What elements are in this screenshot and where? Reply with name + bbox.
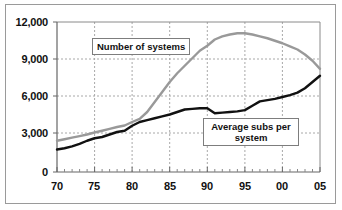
series-callout-number-of-systems: Number of systems bbox=[92, 38, 190, 55]
x-tick-label-80: 80 bbox=[118, 180, 146, 192]
series-callout-average-subs-per-system: Average subs per system bbox=[203, 118, 299, 146]
x-axis-ticks bbox=[57, 167, 320, 172]
x-tick-label-90: 90 bbox=[193, 180, 221, 192]
y-tick-label-3000: 3,000 bbox=[2, 127, 48, 139]
y-tick-label-6000: 6,000 bbox=[2, 90, 48, 102]
x-tick-label-70: 70 bbox=[43, 180, 71, 192]
x-tick-label-85: 85 bbox=[156, 180, 184, 192]
chart-plot-area bbox=[0, 0, 342, 210]
x-tick-label-00: 00 bbox=[268, 180, 296, 192]
y-tick-label-12000: 12,000 bbox=[2, 16, 48, 28]
chart-figure: 12,000 9,000 6,000 3,000 0 70 75 80 85 9… bbox=[0, 0, 342, 210]
y-tick-label-9000: 9,000 bbox=[2, 53, 48, 65]
x-tick-label-95: 95 bbox=[231, 180, 259, 192]
x-tick-label-75: 75 bbox=[80, 180, 108, 192]
y-tick-label-0: 0 bbox=[2, 166, 48, 178]
x-tick-label-05: 05 bbox=[306, 180, 334, 192]
